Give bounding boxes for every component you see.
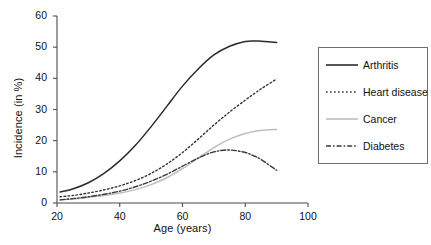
x-axis-ticks [57, 203, 308, 207]
y-tick-label: 10 [25, 165, 47, 177]
series-line-arthritis [60, 41, 276, 192]
legend-item-diabetes[interactable]: Diabetes [319, 135, 429, 157]
y-axis-ticks [53, 16, 57, 203]
y-tick-label: 60 [25, 9, 47, 21]
legend-box: ArthritisHeart diseaseCancerDiabetes [318, 47, 428, 164]
legend-line-swatch [325, 140, 359, 152]
data-series-group [60, 41, 276, 200]
x-tick-label: 40 [105, 210, 135, 222]
legend-line-swatch [325, 86, 359, 98]
y-tick-label: 50 [25, 40, 47, 52]
x-tick-label: 100 [293, 210, 323, 222]
incidence-by-age-chart: Incidence (in %) Age (years) 20406080100… [0, 0, 431, 245]
series-line-heart-disease [60, 79, 276, 197]
y-tick-label: 40 [25, 71, 47, 83]
legend-line-swatch [325, 59, 359, 71]
legend-line-swatch [325, 113, 359, 125]
y-axis-title: Incidence (in %) [12, 58, 24, 178]
y-tick-label: 20 [25, 134, 47, 146]
legend-item-arthritis[interactable]: Arthritis [319, 54, 429, 76]
axes [53, 16, 308, 207]
legend-label: Arthritis [363, 59, 399, 71]
legend-item-cancer[interactable]: Cancer [319, 108, 429, 130]
x-tick-label: 20 [42, 210, 72, 222]
x-axis-title: Age (years) [57, 222, 308, 234]
x-tick-label: 60 [168, 210, 198, 222]
series-line-cancer [60, 129, 276, 199]
legend-item-heart-disease[interactable]: Heart disease [319, 81, 429, 103]
x-tick-label: 80 [230, 210, 260, 222]
y-tick-label: 0 [25, 196, 47, 208]
legend-label: Diabetes [363, 140, 404, 152]
y-tick-label: 30 [25, 103, 47, 115]
legend-label: Heart disease [363, 86, 428, 98]
legend-label: Cancer [363, 113, 397, 125]
